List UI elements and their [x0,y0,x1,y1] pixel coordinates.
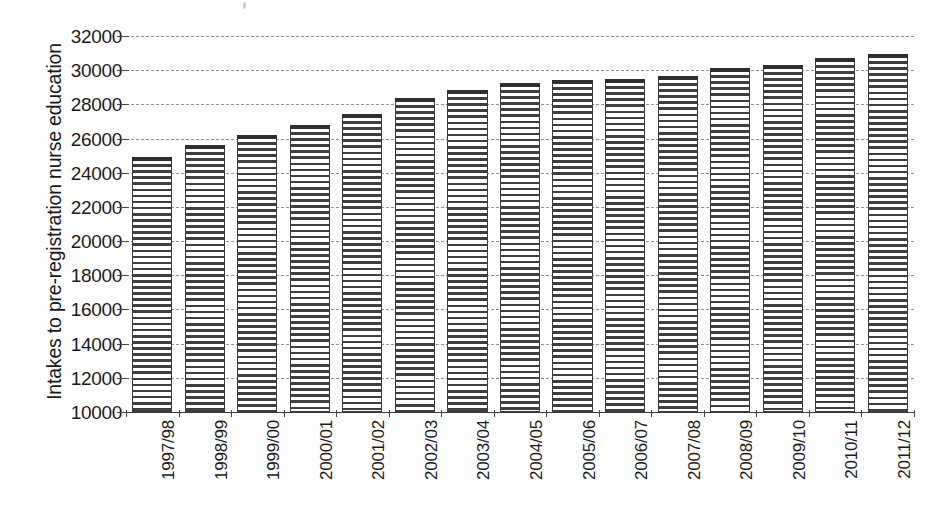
y-tick-label: 20000 [44,232,122,251]
x-tick-label: 2005/06 [581,420,598,516]
x-tickmark [389,410,390,417]
bar[interactable] [658,76,698,412]
x-tickmark [441,410,442,417]
x-tickmark [756,410,757,417]
x-tick-label: 2001/02 [370,420,387,516]
x-tick-label: 1997/98 [160,420,177,516]
bar-top-cap [132,157,172,161]
y-tick-label: 10000 [44,403,122,422]
y-tick-label: 28000 [44,95,122,114]
bar[interactable] [447,90,487,412]
y-tick-label: 26000 [44,129,122,148]
bar-top-cap [710,68,750,72]
bar[interactable] [552,80,592,412]
x-tickmark [179,410,180,417]
scan-artifact-speck [243,2,246,9]
y-tick-label: 14000 [44,334,122,353]
x-tickmark [861,410,862,417]
x-tick-label: 2011/12 [896,420,913,516]
bar-top-cap [185,145,225,149]
x-axis-tick-labels: 1997/981998/991999/002000/012001/022002/… [126,420,914,516]
x-tick-label: 2010/11 [843,420,860,516]
bar[interactable] [290,125,330,412]
y-tick-label: 12000 [44,368,122,387]
x-tickmark [284,410,285,417]
bar[interactable] [710,68,750,412]
y-tick-label: 16000 [44,300,122,319]
bar[interactable] [342,114,382,412]
y-tick-label: 22000 [44,197,122,216]
x-tickmark [126,410,127,417]
y-tick-label: 18000 [44,266,122,285]
x-tickmark [651,410,652,417]
x-tickmark [809,410,810,417]
x-tick-label: 2006/07 [633,420,650,516]
bar-top-cap [237,135,277,139]
x-tick-label: 2000/01 [318,420,335,516]
x-tick-label: 2007/08 [686,420,703,516]
x-tickmark [494,410,495,417]
x-tick-label: 2009/10 [791,420,808,516]
bar[interactable] [815,58,855,412]
x-tickmark [336,410,337,417]
x-tickmark [704,410,705,417]
bar-top-cap [290,125,330,129]
bar-chart-figure: Intakes to pre-registration nurse educat… [0,0,932,520]
y-tick-label: 30000 [44,61,122,80]
bar-top-cap [658,76,698,80]
bar-top-cap [552,80,592,84]
x-tick-label: 2002/03 [423,420,440,516]
x-tick-label: 2004/05 [528,420,545,516]
x-tickmark [914,410,915,417]
bar-top-cap [342,114,382,118]
bar-series [126,36,914,412]
bar-top-cap [763,65,803,69]
bar[interactable] [395,98,435,412]
x-tick-label: 1998/99 [213,420,230,516]
bar[interactable] [605,79,645,412]
bar-top-cap [395,98,435,102]
bar-top-cap [605,79,645,83]
x-tickmark [231,410,232,417]
bar-top-cap [815,58,855,62]
bar-top-cap [868,54,908,58]
y-tick-label: 32000 [44,27,122,46]
x-axis-tickmarks [126,410,914,418]
x-tick-label: 2008/09 [738,420,755,516]
bar[interactable] [763,65,803,412]
bar[interactable] [868,54,908,412]
x-tickmark [599,410,600,417]
x-tick-label: 2003/04 [475,420,492,516]
x-tick-label: 1999/00 [265,420,282,516]
y-axis-tick-labels: 3200030000280002600024000220002000018000… [44,36,122,412]
bar[interactable] [237,135,277,412]
bar-top-cap [500,83,540,87]
bar[interactable] [185,145,225,412]
bar[interactable] [132,157,172,412]
plot-area [126,36,914,412]
x-tickmark [546,410,547,417]
bar-top-cap [447,90,487,94]
bar[interactable] [500,83,540,412]
y-tick-label: 24000 [44,163,122,182]
